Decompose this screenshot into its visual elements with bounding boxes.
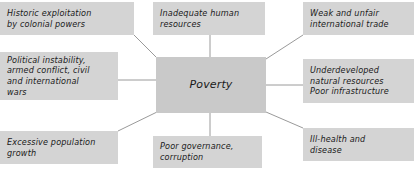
- node-line: natural resources: [310, 76, 408, 87]
- connector-ill-health-disease: [266, 112, 303, 128]
- poverty-mind-map-diagram: Historic exploitation by colonial powers…: [0, 0, 414, 174]
- node-line: Weak and unfair: [310, 8, 408, 19]
- connector-weak-unfair-trade: [266, 35, 303, 59]
- connector-historic-exploitation: [134, 35, 158, 59]
- node-line: international trade: [310, 19, 408, 30]
- node-line: Political instability,: [7, 55, 112, 66]
- node-line: Excessive population: [7, 137, 112, 148]
- node-line: wars: [7, 87, 112, 98]
- node-underdeveloped-resources[interactable]: Underdeveloped natural resources Poor in…: [303, 59, 414, 103]
- node-line: growth: [7, 148, 112, 159]
- node-poverty-center[interactable]: Poverty: [156, 57, 266, 113]
- node-poor-governance[interactable]: Poor governance, corruption: [153, 136, 262, 168]
- node-weak-unfair-trade[interactable]: Weak and unfair international trade: [303, 2, 414, 35]
- node-line: by colonial powers: [7, 19, 128, 30]
- node-line: armed conflict, civil: [7, 65, 112, 76]
- node-line: Inadequate human: [160, 8, 259, 19]
- node-line: Historic exploitation: [7, 8, 128, 19]
- node-political-instability[interactable]: Political instability, armed conflict, c…: [0, 52, 118, 100]
- node-line: Underdeveloped: [310, 65, 408, 76]
- center-label: Poverty: [189, 80, 232, 91]
- node-excessive-population-growth[interactable]: Excessive population growth: [0, 131, 118, 164]
- node-line: and international: [7, 76, 112, 87]
- node-inadequate-human-resources[interactable]: Inadequate human resources: [153, 2, 265, 35]
- node-ill-health-disease[interactable]: Ill-health and disease: [303, 128, 414, 161]
- node-line: Poor infrastructure: [310, 86, 408, 97]
- node-line: resources: [160, 19, 259, 30]
- node-line: disease: [310, 145, 408, 156]
- node-line: Poor governance,: [160, 141, 256, 152]
- connector-excessive-population-growth: [118, 112, 157, 131]
- node-line: Ill-health and: [310, 134, 408, 145]
- node-historic-exploitation[interactable]: Historic exploitation by colonial powers: [0, 2, 134, 35]
- node-line: corruption: [160, 152, 256, 163]
